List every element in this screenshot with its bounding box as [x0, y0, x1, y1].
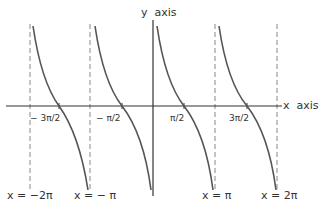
asymptote-label-neg-2pi: x = −2π	[7, 189, 53, 202]
cot-branch-1	[33, 26, 88, 190]
cotangent-graph: y axis x axis − 3π/2 − π/2 π/2 3π/2 x = …	[0, 0, 320, 212]
tick-label-neg-pi-2: − π/2	[96, 113, 121, 123]
asymptote-label-neg-pi: x = − π	[74, 189, 116, 202]
x-axis-label: x axis	[283, 99, 319, 112]
tick-label-pi-2: π/2	[170, 113, 184, 123]
cot-branch-3	[157, 26, 213, 190]
tick-label-3pi-2: 3π/2	[229, 113, 249, 123]
asymptote-label-2pi: x = 2π	[261, 189, 298, 202]
cot-branch-2	[95, 26, 151, 190]
cot-curve	[33, 26, 276, 190]
asymptote-label-pi: x = π	[202, 189, 232, 202]
tick-label-neg-3pi-2: − 3π/2	[30, 113, 60, 123]
y-axis-label: y axis	[141, 6, 177, 19]
